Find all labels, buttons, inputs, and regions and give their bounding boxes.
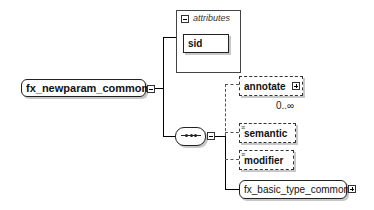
root-element-node[interactable]: fx_newparam_common xyxy=(21,79,146,97)
child-semantic-label: semantic xyxy=(244,128,287,139)
connector-semantic xyxy=(225,132,239,133)
connector-trunk xyxy=(163,37,164,137)
child-semantic[interactable]: ≡ semantic xyxy=(239,123,296,143)
attribute-sid[interactable]: sid xyxy=(183,34,229,53)
root-element-label: fx_newparam_common xyxy=(26,82,148,94)
connector-children-trunk xyxy=(225,136,226,189)
annotate-occurrence: 0..∞ xyxy=(276,100,294,111)
attributes-header: attributes xyxy=(193,13,230,23)
sequence-icon xyxy=(184,135,198,137)
basic-type-expand-toggle[interactable] xyxy=(348,185,356,193)
group-fx-basic-type-common-label: fx_basic_type_common xyxy=(244,184,349,195)
connector-attributes xyxy=(163,37,176,38)
attributes-collapse-toggle[interactable] xyxy=(181,15,189,23)
connector-seq-out xyxy=(215,136,225,137)
child-modifier[interactable]: ≡ modifier xyxy=(239,150,294,170)
connector-modifier xyxy=(225,159,239,160)
connector-root xyxy=(154,88,163,89)
documentation-icon: ≡ xyxy=(241,125,245,131)
attributes-group: attributes sid xyxy=(176,10,241,73)
connector-sequence xyxy=(163,136,175,137)
documentation-icon: ≡ xyxy=(241,152,245,158)
sequence-compositor[interactable] xyxy=(175,127,206,146)
root-collapse-toggle[interactable] xyxy=(147,85,155,93)
attribute-sid-label: sid xyxy=(188,38,202,49)
sequence-collapse-toggle[interactable] xyxy=(207,132,215,140)
group-fx-basic-type-common[interactable]: fx_basic_type_common xyxy=(239,180,347,199)
child-modifier-label: modifier xyxy=(244,155,283,166)
annotate-expand-toggle[interactable] xyxy=(292,82,300,90)
connector-annotate xyxy=(225,84,239,85)
connector-basic-type xyxy=(225,189,239,190)
child-annotate-label: annotate xyxy=(244,81,286,92)
